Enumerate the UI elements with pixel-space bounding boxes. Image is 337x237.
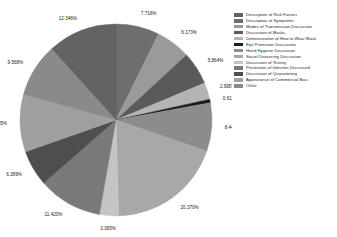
- pie-svg: 7.716%6.173%5.864%2.995%0.617%8.442%20.3…: [0, 0, 232, 237]
- pie-slice-value-label: 12.346%: [59, 16, 77, 21]
- pie-slice-value-label: 6.173%: [181, 30, 197, 35]
- legend-item-label: Demonstration of How to Wear Mask: [246, 36, 316, 42]
- legend-item[interactable]: Prevention of Infection Discussed: [232, 65, 337, 71]
- legend-item-label: Discussion of Quarantining: [246, 71, 297, 77]
- legend-item-label: Social Distancing Discussion: [246, 54, 301, 60]
- legend-swatch-icon: [234, 13, 243, 17]
- legend-item-label: Eye Protection Discussion: [246, 42, 296, 48]
- legend-item[interactable]: Discussion of Masks: [232, 30, 337, 36]
- legend-item[interactable]: Discussion of Testing: [232, 60, 337, 66]
- pie-slice-value-label: 9.568%: [8, 60, 24, 65]
- legend-item[interactable]: Appearance of Commercial Bias: [232, 77, 337, 83]
- legend-item-label: Discussion of Testing: [246, 60, 286, 66]
- pie-slice-value-label: 6.389%: [6, 172, 22, 177]
- legend-item[interactable]: Social Distancing Discussion: [232, 54, 337, 60]
- legend-swatch-icon: [234, 49, 243, 53]
- legend-item-label: Description of Risk Factors: [246, 12, 297, 18]
- legend-swatch-icon: [234, 55, 243, 59]
- pie-slices: [20, 24, 212, 216]
- legend-item[interactable]: Discussion of Quarantining: [232, 71, 337, 77]
- legend-item[interactable]: Other: [232, 83, 337, 89]
- pie-plot-area: 7.716%6.173%5.864%2.995%0.617%8.442%20.3…: [0, 0, 232, 237]
- legend-swatch-icon: [234, 31, 243, 35]
- legend-item-label: Other: [246, 83, 257, 89]
- legend-swatch-icon: [234, 66, 243, 70]
- pie-slice-value-label: 8.442%: [225, 125, 232, 130]
- pie-slice-value-label: 0.617%: [223, 96, 232, 101]
- legend-item[interactable]: Modes of Transmission Discussion: [232, 24, 337, 30]
- legend-item-label: Description of Symptoms: [246, 18, 294, 24]
- legend-swatch-icon: [234, 61, 243, 65]
- pie-slice-value-label: 2.995%: [220, 84, 232, 89]
- legend-item-label: Prevention of Infection Discussed: [246, 65, 310, 71]
- pie-slice-value-label: 7.716%: [141, 11, 157, 16]
- pie-slice-value-label: 3.395%: [100, 226, 116, 231]
- legend-item[interactable]: Eye Protection Discussion: [232, 42, 337, 48]
- legend-swatch-icon: [234, 84, 243, 88]
- legend-swatch-icon: [234, 43, 243, 47]
- pie-slice-value-label: 11.420%: [45, 212, 63, 217]
- pie-slice-value-label: 5.864%: [208, 58, 224, 63]
- legend-item[interactable]: Hand Hygiene Discussion: [232, 48, 337, 54]
- legend-swatch-icon: [234, 78, 243, 82]
- legend-swatch-icon: [234, 25, 243, 29]
- pie-slice-value-label: 20.370%: [181, 205, 199, 210]
- pie-slice-value-label: 10.185%: [0, 121, 7, 126]
- legend-item-label: Hand Hygiene Discussion: [246, 48, 295, 54]
- pie-chart-figure: 7.716%6.173%5.864%2.995%0.617%8.442%20.3…: [0, 0, 337, 237]
- legend-item-label: Appearance of Commercial Bias: [246, 77, 308, 83]
- legend-item-label: Modes of Transmission Discussion: [246, 24, 312, 30]
- legend-item[interactable]: Description of Risk Factors: [232, 12, 337, 18]
- legend-swatch-icon: [234, 72, 243, 76]
- legend-item[interactable]: Description of Symptoms: [232, 18, 337, 24]
- legend-swatch-icon: [234, 19, 243, 23]
- legend-item[interactable]: Demonstration of How to Wear Mask: [232, 36, 337, 42]
- legend-swatch-icon: [234, 37, 243, 41]
- legend-item-label: Discussion of Masks: [246, 30, 285, 36]
- chart-legend: Description of Risk FactorsDescription o…: [232, 12, 337, 89]
